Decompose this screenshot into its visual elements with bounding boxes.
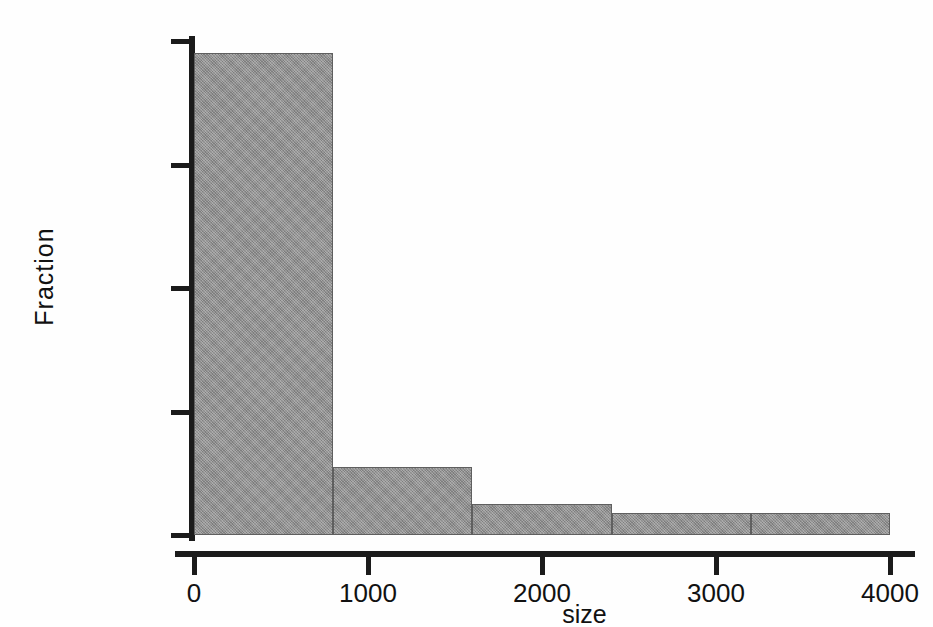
histogram-bar [333, 467, 472, 535]
x-tick-mark [714, 556, 719, 575]
y-tick-mark [171, 286, 190, 291]
x-tick-label: 4000 [820, 578, 933, 609]
y-tick-mark [171, 39, 190, 44]
x-axis-title-text: size [562, 600, 606, 627]
x-tick-mark [540, 556, 545, 575]
y-axis-title: Fraction [30, 177, 59, 377]
x-tick-mark [366, 556, 371, 575]
x-tick-mark [192, 556, 197, 575]
x-tick-label: 3000 [646, 578, 786, 609]
plot-area [194, 38, 891, 535]
y-tick-mark [171, 163, 190, 168]
x-tick-label: 0 [124, 578, 264, 609]
histogram-bar [472, 504, 611, 535]
y-tick-mark [171, 533, 190, 538]
x-axis-title: size [0, 608, 933, 627]
histogram-bar [194, 53, 333, 535]
x-tick-mark [888, 556, 893, 575]
histogram-bar [751, 513, 890, 535]
x-tick-label: 1000 [298, 578, 438, 609]
y-tick-mark [171, 410, 190, 415]
x-axis-line [175, 551, 915, 557]
histogram-bar [612, 513, 751, 535]
